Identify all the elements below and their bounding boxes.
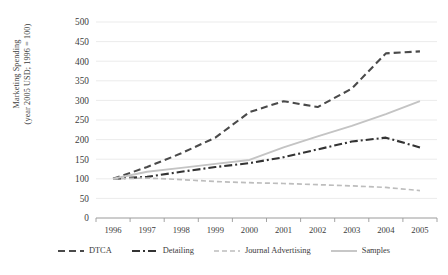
- x-axis-tick-label: 1999: [207, 225, 224, 235]
- series-line-journal-advertising: [113, 178, 420, 191]
- legend-label: DTCA: [89, 246, 112, 255]
- legend-swatch-icon: [132, 247, 158, 255]
- legend-item-dtca[interactable]: DTCA: [58, 246, 112, 255]
- chart-legend: DTCADetailingJournal AdvertisingSamples: [0, 246, 448, 255]
- legend-item-detailing[interactable]: Detailing: [132, 246, 194, 255]
- x-axis-tick-label: 2001: [275, 225, 292, 235]
- plot-area: 0501001502002503003504004505001996199719…: [0, 0, 448, 275]
- line-chart: Marketing Spending (year 2005 USD; 1996 …: [0, 0, 448, 275]
- legend-swatch-icon: [58, 247, 84, 255]
- x-axis: [96, 218, 437, 222]
- y-axis-tick-label: 450: [75, 37, 89, 47]
- y-axis-tick-label: 150: [75, 155, 89, 165]
- y-axis-tick-label: 350: [75, 76, 89, 86]
- legend-swatch-icon: [331, 247, 357, 255]
- y-axis-tick-label: 300: [75, 96, 89, 106]
- x-axis-tick-labels: 1996199719981999200020012002200320042005: [104, 225, 428, 235]
- x-axis-tick-label: 2005: [411, 225, 428, 235]
- series-line-detailing: [113, 138, 420, 179]
- legend-label: Samples: [362, 246, 390, 255]
- y-axis-tick-label: 100: [75, 174, 89, 184]
- x-axis-tick-label: 1997: [139, 225, 157, 235]
- y-axis-tick-label: 50: [80, 194, 90, 204]
- y-axis-tick-labels: 050100150200250300350400450500: [75, 17, 89, 223]
- legend-swatch-icon: [214, 247, 240, 255]
- x-axis-tick-label: 2000: [241, 225, 258, 235]
- series-line-dtca: [113, 51, 420, 178]
- y-axis-tick-label: 250: [75, 115, 89, 125]
- legend-label: Detailing: [163, 246, 194, 255]
- data-series-group: [113, 51, 420, 190]
- legend-label: Journal Advertising: [245, 246, 311, 255]
- y-axis-tick-label: 0: [84, 213, 89, 223]
- legend-item-samples[interactable]: Samples: [331, 246, 390, 255]
- y-axis-tick-label: 400: [75, 57, 89, 67]
- x-axis-tick-label: 2004: [377, 225, 395, 235]
- y-axis-tick-label: 200: [75, 135, 89, 145]
- x-axis-tick-label: 1998: [173, 225, 190, 235]
- x-axis-tick-label: 1996: [104, 225, 122, 235]
- y-axis-tick-label: 500: [75, 17, 89, 27]
- legend-item-journal-advertising[interactable]: Journal Advertising: [214, 246, 311, 255]
- x-axis-tick-label: 2002: [309, 225, 326, 235]
- x-axis-tick-label: 2003: [343, 225, 360, 235]
